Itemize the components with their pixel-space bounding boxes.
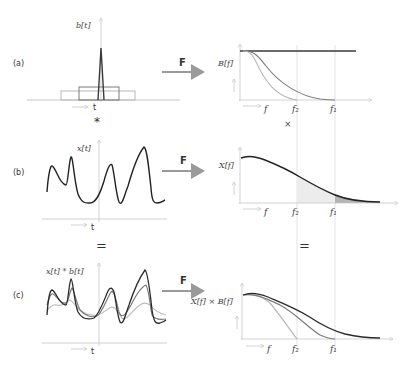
panel-a: (a) b[t] t * F B[f] f f₂ f₁ ×: [13, 18, 372, 129]
spectrum-product-delta: [243, 293, 380, 338]
f1-label-c: f₁: [329, 344, 337, 354]
equals-right: =: [299, 238, 310, 253]
multiplication-operator: ×: [284, 119, 292, 129]
signal-original-c: [47, 270, 166, 323]
signal-smoothed-narrow: [47, 285, 166, 320]
panel-b: (b) x[t] t = F X[f] f f₂ f₁ =: [13, 140, 398, 253]
spectrum-product-narrow: [243, 295, 335, 339]
fourier-label-c: F: [180, 275, 187, 286]
f1-label-a: f₁: [329, 104, 337, 114]
panel-c: (c) x[t] * b[t] t F X[f] × B[f] f f₂ f₁: [13, 263, 393, 356]
x-conv-b-label: x[t] * b[t]: [46, 267, 85, 276]
spectrum-narrow-box: [243, 51, 335, 100]
convolution-theorem-diagram: (a) b[t] t * F B[f] f f₂ f₁ ×: [0, 0, 414, 370]
f1-label-b: f₁: [329, 207, 337, 217]
t-label-c: t: [91, 347, 94, 356]
fourier-label-b: F: [180, 155, 187, 166]
f2-label-a: f₂: [291, 104, 299, 114]
x-t-label: x[t]: [77, 144, 92, 153]
fourier-label-a: F: [179, 57, 186, 68]
equals-left: =: [96, 238, 107, 253]
f-label-c: f: [266, 344, 272, 354]
panel-a-label: (a): [13, 59, 24, 68]
t-label-a: t: [93, 103, 96, 112]
convolution-operator: *: [94, 115, 100, 129]
f-label-a: f: [263, 104, 269, 114]
spectrum-wide-box: [243, 51, 297, 100]
f-label-b: f: [263, 207, 269, 217]
panel-b-label: (b): [13, 168, 24, 177]
b-t-label: b[t]: [76, 21, 91, 30]
signal-x-t: [47, 147, 165, 203]
B-f-label: B[f]: [217, 59, 234, 68]
t-label-b: t: [91, 223, 94, 232]
panel-c-label: (c): [13, 291, 24, 300]
f2-label-c: f₂: [291, 344, 299, 354]
X-times-B-label: X[f] × B[f]: [190, 297, 234, 306]
f2-label-b: f₂: [291, 207, 299, 217]
X-f-label: X[f]: [218, 161, 235, 170]
